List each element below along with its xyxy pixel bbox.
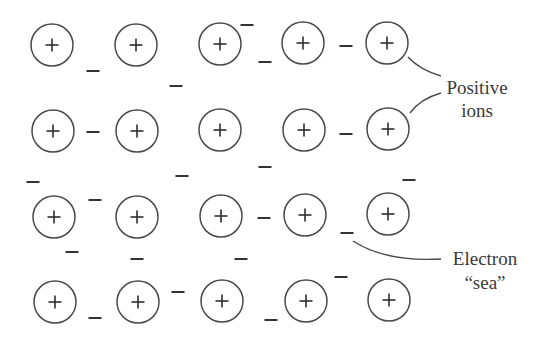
metallic-bonding-diagram: Positive ions Electron “sea” [0, 0, 546, 342]
positive-ion [283, 109, 325, 151]
positive-ion [116, 110, 158, 152]
leader-line-electron-sea [353, 241, 441, 259]
positive-ion [200, 195, 242, 237]
positive-ion [33, 196, 75, 238]
positive-ion [282, 22, 324, 64]
positive-ion [284, 194, 326, 236]
positive-ion [115, 24, 157, 66]
positive-ion [117, 281, 159, 323]
positive-ion [199, 109, 241, 151]
positive-ion [199, 23, 241, 65]
positive-ion [34, 281, 76, 323]
positive-ion [32, 110, 74, 152]
leader-line-positive-ions-upper [408, 57, 441, 76]
positive-ion [285, 280, 327, 322]
label-electron-sea-line2: “sea” [464, 272, 505, 293]
positive-ion [367, 193, 409, 235]
label-positive-ions-line2: ions [461, 100, 493, 121]
positive-ion [366, 22, 408, 64]
label-positive-ions-line1: Positive [446, 77, 507, 98]
positive-ion [201, 280, 243, 322]
positive-ions-lattice [31, 22, 410, 323]
label-electron-sea-line1: Electron [453, 248, 518, 269]
leader-line-positive-ions-lower [410, 93, 441, 113]
positive-ion [368, 279, 410, 321]
electron-sea [27, 25, 416, 320]
positive-ion [116, 196, 158, 238]
positive-ion [367, 108, 409, 150]
positive-ion [31, 24, 73, 66]
